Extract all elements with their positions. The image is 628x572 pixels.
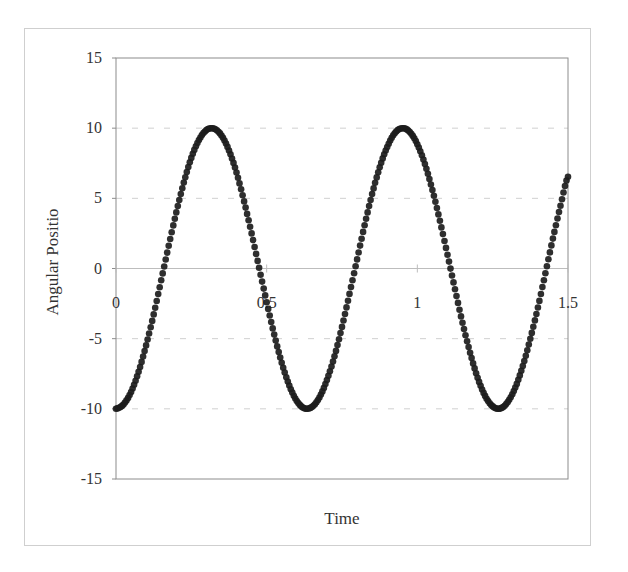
- data-point: [167, 236, 174, 243]
- y-tick-label: 10: [86, 119, 102, 136]
- data-point: [143, 342, 150, 349]
- data-point: [248, 230, 255, 237]
- data-point: [153, 298, 160, 305]
- data-point: [244, 211, 251, 218]
- data-point: [357, 242, 364, 249]
- data-point: [545, 256, 552, 263]
- data-point: [367, 197, 374, 204]
- data-point: [257, 271, 264, 278]
- data-point: [239, 192, 246, 199]
- y-axis-ticks: 151050-5-10-15: [81, 49, 116, 487]
- data-point: [266, 312, 273, 319]
- data-point: [548, 242, 555, 249]
- data-point: [366, 203, 373, 210]
- y-tick-label: 0: [94, 260, 102, 277]
- data-point: [449, 272, 456, 279]
- data-point: [342, 311, 349, 318]
- data-point: [271, 331, 278, 338]
- data-point: [247, 224, 254, 231]
- data-point: [547, 249, 554, 256]
- data-point: [536, 298, 543, 305]
- data-point: [245, 217, 252, 224]
- data-point: [254, 258, 261, 265]
- data-point: [156, 284, 163, 291]
- data-point: [161, 263, 168, 270]
- data-point: [526, 341, 533, 348]
- data-point: [250, 237, 257, 244]
- data-point: [441, 238, 448, 245]
- data-point: [530, 323, 537, 330]
- data-point: [168, 229, 175, 236]
- data-point: [172, 216, 179, 223]
- data-point: [538, 291, 545, 298]
- data-point: [345, 297, 352, 304]
- data-point: [458, 313, 465, 320]
- data-point: [553, 222, 560, 229]
- data-point: [251, 244, 258, 251]
- data-point: [235, 175, 242, 182]
- x-tick-label: 1.5: [558, 294, 578, 311]
- y-tick-label: -10: [81, 400, 102, 417]
- data-point: [149, 318, 156, 325]
- data-point: [556, 209, 563, 216]
- data-point: [263, 299, 270, 306]
- data-point: [462, 332, 469, 339]
- data-point: [164, 249, 171, 256]
- y-tick-label: -5: [89, 330, 102, 347]
- data-point: [459, 320, 466, 327]
- data-point: [336, 336, 343, 343]
- data-point: [274, 343, 281, 350]
- data-point: [431, 193, 438, 200]
- data-point: [333, 348, 340, 355]
- data-point: [369, 191, 376, 198]
- data-point: [179, 185, 186, 192]
- data-point: [236, 180, 243, 187]
- data-point: [354, 256, 361, 263]
- data-point: [544, 263, 551, 270]
- data-point: [435, 211, 442, 218]
- data-point: [346, 291, 353, 298]
- data-point: [340, 317, 347, 324]
- y-axis-title: Angular Positio: [43, 208, 62, 315]
- data-point: [141, 348, 148, 355]
- data-point: [334, 342, 341, 349]
- data-point: [260, 285, 267, 292]
- data-point: [349, 277, 356, 284]
- data-point: [241, 198, 248, 205]
- data-point: [178, 191, 185, 198]
- data-point: [559, 196, 566, 203]
- data-point: [554, 215, 561, 222]
- data-point: [269, 325, 276, 332]
- data-point: [265, 306, 272, 313]
- data-point: [268, 319, 275, 326]
- data-point: [146, 330, 153, 337]
- data-point: [363, 216, 370, 223]
- data-point: [565, 173, 572, 180]
- data-point: [532, 317, 539, 324]
- y-tick-label: -15: [81, 470, 102, 487]
- data-point: [256, 265, 263, 272]
- data-point: [557, 203, 564, 210]
- data-point: [364, 209, 371, 216]
- data-point: [535, 304, 542, 311]
- data-point: [464, 338, 471, 345]
- data-point: [144, 336, 151, 343]
- gridlines: [116, 128, 568, 409]
- data-point: [262, 292, 269, 299]
- data-point: [529, 330, 536, 337]
- data-point: [170, 222, 177, 229]
- data-point: [339, 324, 346, 331]
- data-point: [152, 305, 159, 312]
- data-point: [176, 197, 183, 204]
- data-point: [541, 277, 548, 284]
- data-point: [337, 330, 344, 337]
- data-point: [242, 204, 249, 211]
- data-point: [428, 181, 435, 188]
- chart-canvas: 151050-5-10-15 00.511.5 Time Angular Pos…: [0, 0, 628, 572]
- data-point: [155, 291, 162, 298]
- y-tick-label: 15: [86, 49, 102, 66]
- data-point: [542, 270, 549, 277]
- data-point: [443, 245, 450, 252]
- data-point: [173, 209, 180, 216]
- x-axis-title: Time: [324, 509, 359, 528]
